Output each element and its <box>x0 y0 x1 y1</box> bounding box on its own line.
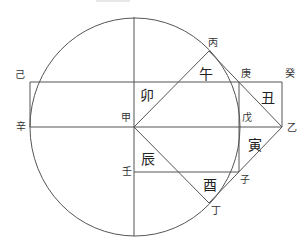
region-chen: 辰 <box>141 152 155 166</box>
label-bing: 丙 <box>208 38 218 48</box>
yi-to-ding-line <box>209 127 282 203</box>
label-jia: 甲 <box>121 113 131 123</box>
label-ren: 壬 <box>122 167 132 177</box>
construction-lines <box>30 17 282 236</box>
diagram-canvas: 丙 己 庚 癸 辛 甲 戊 乙 壬 子 丁 卯 午 丑 寅 辰 酉 <box>0 0 307 249</box>
label-yi: 乙 <box>287 123 297 133</box>
label-xin: 辛 <box>16 122 26 132</box>
label-ji: 己 <box>15 70 25 80</box>
region-you: 酉 <box>203 178 217 192</box>
region-yin: 寅 <box>248 138 262 152</box>
label-zi: 子 <box>240 175 250 185</box>
label-geng: 庚 <box>241 69 251 79</box>
region-mao: 卯 <box>140 88 154 102</box>
geometric-figure <box>0 0 307 249</box>
label-ding: 丁 <box>211 206 221 216</box>
region-chou: 丑 <box>261 91 275 105</box>
label-gui: 癸 <box>285 69 295 79</box>
label-wu: 戊 <box>242 113 252 123</box>
region-wu-horse: 午 <box>199 67 213 81</box>
